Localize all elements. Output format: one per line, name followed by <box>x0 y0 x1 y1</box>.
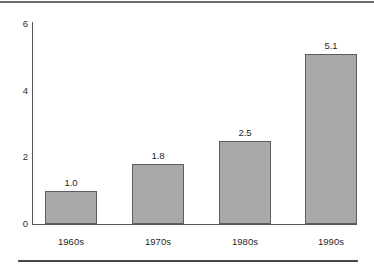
bar-1960s <box>45 191 97 224</box>
bar-1980s <box>219 141 271 224</box>
bar-chart-plot-area: 0246 1.01.82.55.1 1960s1970s1980s1990s <box>0 0 374 272</box>
y-axis-tick: 6 <box>0 19 28 29</box>
y-axis-tick: 0 <box>0 219 28 229</box>
x-axis-line <box>32 224 357 225</box>
x-axis-label-1960s: 1960s <box>31 236 111 247</box>
y-axis-tick: 2 <box>0 152 28 162</box>
x-axis-label-1980s: 1980s <box>205 236 285 247</box>
y-axis-tick: 4 <box>0 86 28 96</box>
bottom-divider-rule <box>18 260 358 262</box>
x-axis-label-1970s: 1970s <box>118 236 198 247</box>
bar-value-label: 5.1 <box>291 40 371 51</box>
x-axis-label-1990s: 1990s <box>291 236 371 247</box>
bar-1970s <box>132 164 184 224</box>
y-axis-tick-label: 2 <box>4 152 28 162</box>
y-axis-tick-label: 0 <box>4 219 28 229</box>
y-axis-tick-label: 6 <box>4 19 28 29</box>
bar-value-label: 2.5 <box>205 127 285 138</box>
bar-value-label: 1.0 <box>31 177 111 188</box>
y-axis-line <box>32 22 33 225</box>
chart-page: 0246 1.01.82.55.1 1960s1970s1980s1990s <box>0 0 374 272</box>
bar-value-label: 1.8 <box>118 150 198 161</box>
y-axis-tick-label: 4 <box>4 86 28 96</box>
bar-1990s <box>305 54 357 224</box>
